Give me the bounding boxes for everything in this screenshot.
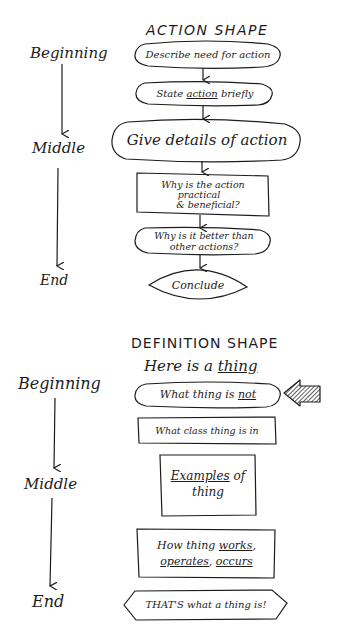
- state-label-post: briefly: [218, 88, 254, 100]
- state-label-pre: State: [157, 88, 187, 100]
- how-line1-post: ,: [252, 539, 256, 552]
- action-stage-arrow-middle-end: [57, 168, 58, 266]
- definition-stage-beginning: Beginning: [18, 374, 101, 393]
- how-line2-underlined2: occurs: [216, 555, 253, 568]
- action-node-conclude-text: Conclude: [150, 276, 246, 296]
- action-node-state-text: State action briefly: [138, 84, 272, 104]
- why-practical-line3: & beneficial?: [176, 200, 239, 210]
- class-label: What class thing is in: [155, 426, 258, 437]
- action-shape-title: ACTION SHAPE: [146, 22, 268, 38]
- how-line2-underlined1: operates: [160, 555, 209, 568]
- state-label-underlined: action: [186, 88, 217, 100]
- examples-line1: Examples of: [171, 469, 245, 485]
- action-node-why-practical-text: Why is the action practical & beneficial…: [140, 176, 266, 214]
- hatched-arrow-icon: [284, 380, 320, 406]
- action-stage-beginning: Beginning: [30, 44, 108, 62]
- action-stage-end: End: [40, 272, 68, 288]
- definition-node-examples-text: Examples of thing: [162, 457, 254, 513]
- definition-node-how-text: How thing works, operates, occurs: [140, 531, 273, 576]
- describe-label: Describe need for action: [146, 49, 271, 61]
- examples-underlined: Examples: [171, 469, 230, 483]
- why-better-line1: Why is it better than: [154, 231, 253, 241]
- how-line1: How thing works,: [157, 538, 256, 554]
- why-better-line2: other actions?: [170, 242, 239, 252]
- subtitle-pre: Here is a: [144, 357, 218, 375]
- action-node-describe-text: Describe need for action: [138, 44, 278, 66]
- definition-stage-middle: Middle: [24, 475, 77, 493]
- action-node-why-better-text: Why is it better than other actions?: [140, 229, 268, 254]
- details-label: Give details of action: [127, 132, 288, 149]
- conclude-label: Conclude: [172, 280, 224, 293]
- not-label-underlined: not: [238, 389, 256, 402]
- subtitle-underlined: thing: [218, 357, 258, 375]
- conclusion-label: THAT'S what a thing is!: [146, 599, 267, 611]
- examples-line2: thing: [192, 485, 224, 501]
- how-line2-mid: ,: [209, 555, 216, 568]
- not-label-pre: What thing is: [160, 389, 238, 402]
- action-node-details-text: Give details of action: [116, 124, 298, 158]
- how-line1-underlined: works: [219, 539, 253, 552]
- definition-shape-title: DEFINITION SHAPE: [131, 335, 278, 351]
- definition-shape-subtitle: Here is a thing: [144, 357, 258, 375]
- how-line2: operates, occurs: [160, 554, 253, 570]
- examples-post: of: [230, 469, 245, 483]
- definition-stage-end: End: [32, 592, 64, 611]
- definition-stage-arrow-beginning-middle: [54, 398, 55, 468]
- definition-stage-arrow-middle-end: [50, 498, 52, 586]
- how-line1-pre: How thing: [157, 539, 219, 552]
- definition-node-not-text: What thing is not: [138, 385, 278, 406]
- diagram-canvas: ACTION SHAPE Beginning Middle End Descri…: [0, 0, 341, 642]
- definition-node-class-text: What class thing is in: [140, 419, 274, 443]
- action-stage-middle: Middle: [32, 139, 85, 157]
- definition-node-conclusion-text: THAT'S what a thing is!: [130, 593, 282, 617]
